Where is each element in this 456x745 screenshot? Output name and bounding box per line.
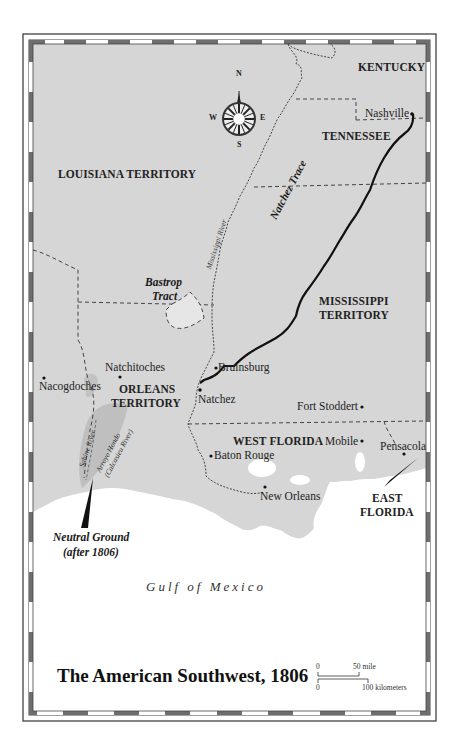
neutral-ground-label-line1: Neutral Ground (53, 532, 129, 544)
region-east-florida-line1: EAST (372, 493, 402, 505)
city-bruinsburg: Bruinsburg (218, 362, 270, 374)
city-natchitoches: Natchitoches (105, 362, 165, 374)
city-fort-stoddert: Fort Stoddert (297, 401, 358, 413)
region-orleans-territory-line1: ORLEANS (119, 384, 175, 396)
region-orleans-territory-line2: TERRITORY (111, 398, 181, 410)
map-title: The American Southwest, 1806 (57, 666, 308, 685)
region-mississippi-territory-line2: TERRITORY (319, 310, 389, 322)
region-kentucky: KENTUCKY (358, 62, 425, 74)
city-baton-rouge: Baton Rouge (214, 450, 274, 462)
bastrop-tract-label-line1: Bastrop (145, 277, 182, 289)
region-east-florida-line2: FLORIDA (360, 507, 414, 519)
region-mississippi-territory-line1: MISSISSIPPI (319, 296, 389, 308)
compass-north-label: N (236, 70, 242, 78)
compass-west-label: W (209, 114, 217, 122)
city-nashville: Nashville (365, 108, 409, 120)
compass-east-label: E (260, 114, 265, 122)
region-louisiana-territory: LOUISIANA TERRITORY (58, 169, 196, 181)
city-nacogdoches: Nacogdoches (39, 381, 101, 393)
scale-km-label: 100 kilometers (362, 684, 407, 692)
gulf-of-mexico-label: Gulf of Mexico (146, 580, 266, 593)
city-mobile: Mobile (325, 436, 358, 448)
city-natchez: Natchez (198, 394, 236, 406)
scale-mile-zero: 0 (316, 663, 320, 671)
bastrop-tract-label-line2: Tract (152, 291, 177, 303)
city-pensacola: Pensacola (380, 441, 426, 453)
neutral-ground-label-line2: (after 1806) (63, 547, 119, 559)
compass-south-label: S (237, 141, 241, 149)
scale-mile-label: 50 mile (353, 663, 376, 671)
scale-km-zero: 0 (316, 684, 320, 692)
region-tennessee: TENNESSEE (322, 131, 391, 143)
region-west-florida: WEST FLORIDA (233, 436, 323, 448)
city-new-orleans: New Orleans (260, 491, 320, 503)
